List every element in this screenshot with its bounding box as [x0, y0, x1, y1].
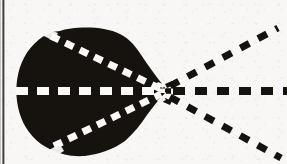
left-page-rule-shadow	[0, 0, 1, 164]
figure-container: Converging rays focal point diagram A so…	[0, 0, 287, 164]
left-page-rule	[2, 0, 4, 164]
figure-canvas	[0, 0, 287, 164]
